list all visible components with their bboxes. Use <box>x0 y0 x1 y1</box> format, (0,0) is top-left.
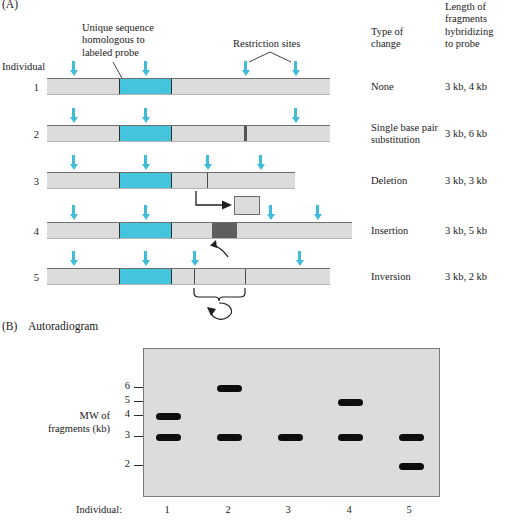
autoradiogram-gel <box>143 348 440 497</box>
gel-tick-label-4: 4 <box>116 408 130 419</box>
gel-tick-label-2: 2 <box>116 458 130 469</box>
panel-b-tag: (B) <box>2 320 17 332</box>
gel-tick-mark-6 <box>134 387 143 388</box>
gel-band-lane1-4kb <box>156 413 181 420</box>
gel-tick-mark-2 <box>134 465 143 466</box>
gel-tick-mark-3 <box>134 436 143 437</box>
gel-band-lane2-6kb <box>217 385 242 392</box>
gel-tick-label-6: 6 <box>116 380 130 391</box>
gel-band-lane4-5kb <box>338 399 363 406</box>
gel-lane-label-4: 4 <box>338 504 360 515</box>
gel-band-lane5-3kb <box>399 434 424 441</box>
gel-band-lane5-2kb <box>399 463 424 470</box>
gel-lane-label-2: 2 <box>217 504 239 515</box>
gel-y-axis-label: MW of fragments (kb) <box>38 410 110 435</box>
gel-x-axis-label: Individual: <box>76 504 122 515</box>
gel-tick-mark-4 <box>134 415 143 416</box>
gel-band-lane4-3kb <box>338 434 363 441</box>
panel-b-title: Autoradiogram <box>28 320 98 332</box>
gel-tick-label-5: 5 <box>116 394 130 405</box>
gel-band-lane3-3kb <box>278 434 303 441</box>
gel-lane-label-5: 5 <box>398 504 420 515</box>
gel-lane-label-1: 1 <box>156 504 178 515</box>
gel-band-lane2-3kb <box>217 434 242 441</box>
gel-tick-label-3: 3 <box>116 429 130 440</box>
gel-tick-mark-5 <box>134 401 143 402</box>
gel-lane-label-3: 3 <box>277 504 299 515</box>
gel-band-lane1-3kb <box>156 434 181 441</box>
